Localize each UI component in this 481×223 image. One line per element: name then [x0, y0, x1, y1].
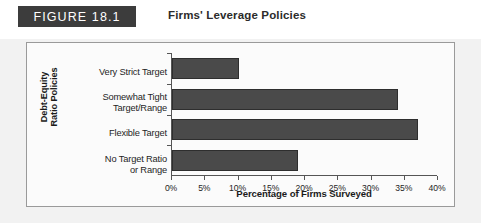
x-axis-tick: [271, 176, 272, 180]
category-axis-labels: Very Strict TargetSomewhat TightTarget/R…: [63, 55, 167, 174]
x-axis-tick: [204, 176, 205, 180]
bar-4: [172, 150, 298, 171]
bar-fill: [172, 150, 298, 171]
y-axis-tick: [167, 53, 171, 54]
bar-3: [172, 119, 418, 140]
bar-2: [172, 89, 398, 110]
x-axis-tick: [304, 176, 305, 180]
y-axis-title-line-2: Ratio Policies: [49, 68, 60, 127]
category-label-line: Somewhat Tight: [63, 92, 167, 103]
category-label-1: Very Strict Target: [63, 67, 167, 78]
category-label-2: Somewhat TightTarget/Range: [63, 92, 167, 114]
x-axis-tick: [171, 176, 172, 180]
plot-area: 0%5%10%15%20%25%30%35%40%: [171, 53, 437, 176]
category-label-line: Target/Range: [63, 103, 167, 114]
figure-title: Firms' Leverage Policies: [168, 9, 306, 21]
figure-number-badge: FIGURE 18.1: [18, 6, 136, 27]
y-axis-title-line-1: Debt-Equity: [39, 72, 50, 122]
category-label-line: No Target Ratio: [63, 154, 167, 165]
y-axis-tick: [167, 145, 171, 146]
category-label-4: No Target Ratioor Range: [63, 154, 167, 176]
category-label-line: Very Strict Target: [63, 67, 167, 78]
x-axis-tick: [404, 176, 405, 180]
x-axis-tick: [238, 176, 239, 180]
figure-header: FIGURE 18.1 Firms' Leverage Policies: [0, 0, 481, 39]
category-label-line: or Range: [63, 165, 167, 176]
x-axis-tick: [437, 176, 438, 180]
x-axis-tick: [337, 176, 338, 180]
y-axis-tick: [167, 115, 171, 116]
bar-fill: [172, 58, 239, 79]
bar-fill: [172, 119, 418, 140]
category-label-line: Flexible Target: [63, 128, 167, 139]
y-axis-title: Debt-Equity Ratio Policies: [37, 49, 61, 145]
bar-fill: [172, 89, 398, 110]
y-axis-tick: [167, 84, 171, 85]
figure-panel: Debt-Equity Ratio Policies Very Strict T…: [26, 42, 455, 207]
bar-chart: Debt-Equity Ratio Policies Very Strict T…: [27, 43, 454, 206]
x-axis-tick: [371, 176, 372, 180]
category-label-3: Flexible Target: [63, 128, 167, 139]
x-axis-title: Percentage of Firms Surveyed: [171, 188, 437, 199]
bar-1: [172, 58, 239, 79]
